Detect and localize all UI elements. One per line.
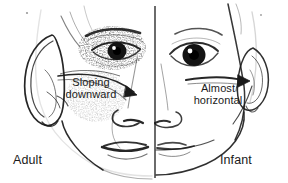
adult-eye-highlight [112, 46, 116, 50]
paper-speckle [26, 12, 28, 14]
callout-line-2: horizontal [182, 94, 254, 106]
infant-eye-highlight [188, 49, 193, 54]
callout-line-1: Sloping [58, 76, 124, 88]
anatomy-figure: Sloping downward Almost horizontal Adult… [0, 0, 288, 183]
callout-almost-horizontal: Almost horizontal [182, 82, 254, 107]
callout-line-1: Almost [182, 82, 254, 94]
paper-speckle [260, 14, 262, 16]
side-label-infant: Infant [220, 153, 252, 167]
callout-line-2: downward [58, 88, 124, 100]
side-label-adult: Adult [13, 153, 42, 167]
callout-sloping-downward: Sloping downward [58, 76, 124, 101]
